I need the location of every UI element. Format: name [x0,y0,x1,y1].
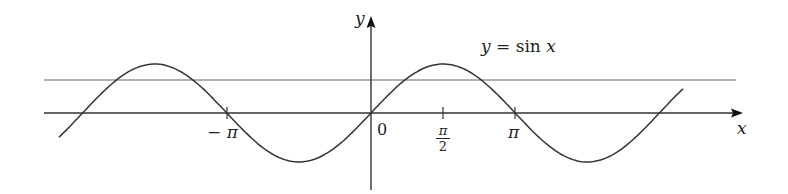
tick-label-half-pi: π 2 [436,124,450,153]
tick-label-zero: 0 [377,120,387,139]
tick-label-neg-pi: − π [207,122,238,142]
x-axis-label: x [737,118,747,138]
curve-label: y = sin x [481,36,556,56]
sine-chart [0,0,788,194]
y-axis-label: y [355,8,365,28]
tick-label-pi: π [508,122,519,142]
